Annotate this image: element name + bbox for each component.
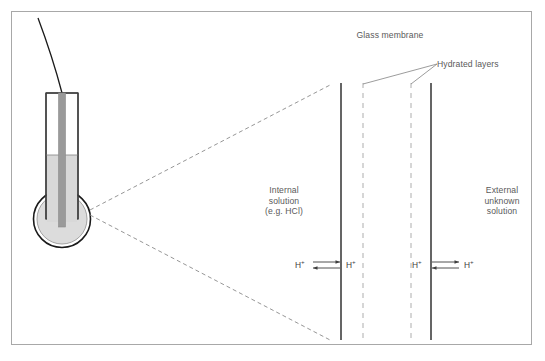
electrode-group [34, 18, 91, 248]
figure-canvas: Glass membrane Hydrated layers Internal … [0, 0, 545, 361]
ion-charge: + [418, 258, 422, 265]
arrow-outer-forward-head [455, 260, 460, 263]
label-hydrated-layers: Hydrated layers [437, 59, 545, 70]
internal-reference-rod [59, 93, 66, 227]
equilibrium-arrow-inner [313, 260, 340, 269]
ion-label-internal-solution: H+ [295, 261, 305, 270]
ion-label-inner-hydrated-layer: H+ [346, 261, 356, 270]
ion-charge: + [470, 258, 474, 265]
diagram-graphics [0, 0, 545, 361]
leader-line-hydrated-outer [411, 64, 437, 84]
ion-label-outer-hydrated-layer: H+ [412, 261, 422, 270]
ion-charge: + [352, 258, 356, 265]
leader-lines [363, 64, 437, 84]
ion-charge: + [301, 258, 305, 265]
label-glass-membrane: Glass membrane [300, 30, 480, 41]
label-internal-solution: Internal solution (e.g. HCl) [232, 185, 336, 217]
arrow-inner-reverse-head [313, 266, 318, 269]
leader-line-hydrated-inner [363, 64, 437, 84]
arrow-outer-reverse-head [432, 266, 437, 269]
equilibrium-arrow-outer [432, 260, 459, 269]
membrane-cross-section [341, 83, 431, 340]
projection-line-lower [90, 215, 332, 341]
label-external-solution: External unknown solution [463, 185, 541, 217]
ion-label-external-solution: H+ [464, 261, 474, 270]
arrow-inner-forward-head [336, 260, 341, 263]
electrode-wire-icon [38, 18, 62, 93]
